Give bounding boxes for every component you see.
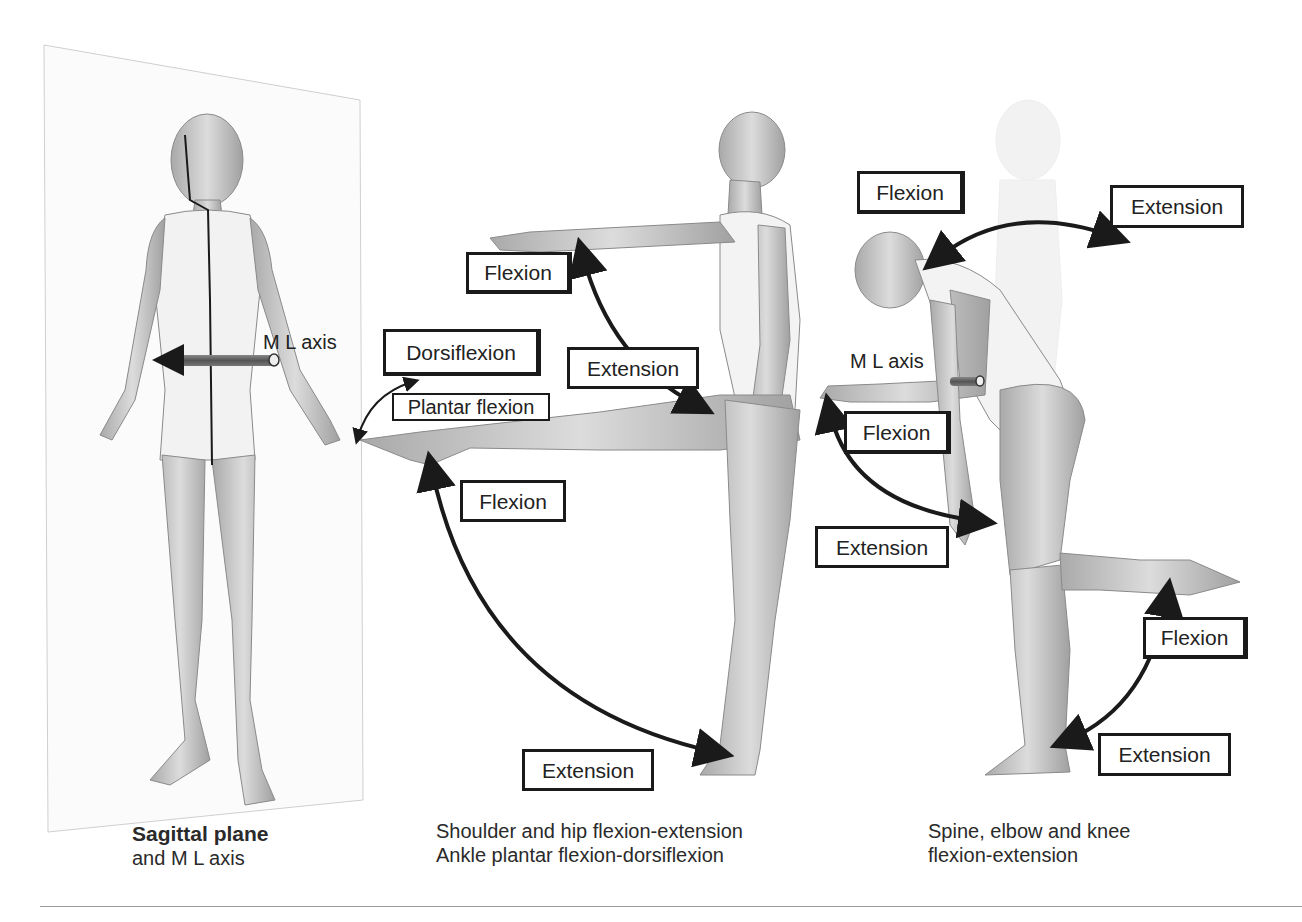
label-elbow-extension: Extension (815, 526, 949, 568)
label-spine-flexion: Flexion (857, 171, 965, 214)
label-knee-flexion: Flexion (1143, 617, 1248, 659)
sagittal-caption-subtitle: and M L axis (132, 847, 245, 869)
label-elbow-flexion: Flexion (844, 411, 951, 454)
ml-axis-label: M L axis (263, 331, 337, 354)
panel2-caption: Shoulder and hip flexion-extension Ankle… (436, 819, 743, 867)
panel2-caption-line1: Shoulder and hip flexion-extension (436, 820, 743, 842)
panel3-caption-line1: Spine, elbow and knee (928, 820, 1130, 842)
panel3-caption-line2: flexion-extension (928, 844, 1078, 866)
sagittal-plane-panel (44, 45, 363, 832)
panel2-caption-line2: Ankle plantar flexion-dorsiflexion (436, 844, 724, 866)
elbow-ml-axis-label: M L axis (850, 350, 924, 373)
label-shoulder-flexion: Flexion (466, 252, 572, 294)
label-spine-extension: Extension (1110, 185, 1244, 228)
label-hip-extension: Extension (522, 749, 654, 791)
label-knee-extension: Extension (1098, 733, 1231, 776)
label-hip-flexion: Flexion (460, 480, 566, 522)
panel3-caption: Spine, elbow and knee flexion-extension (928, 819, 1130, 867)
side-figure-standing (360, 112, 800, 775)
label-shoulder-extension: Extension (567, 347, 699, 389)
label-plantar-flexion: Plantar flexion (392, 393, 550, 421)
ml-axis-rod (175, 355, 275, 366)
sagittal-caption: Sagittal plane and M L axis (132, 822, 269, 870)
bottom-divider (40, 906, 1302, 907)
sagittal-caption-title: Sagittal plane (132, 822, 269, 845)
label-dorsiflexion: Dorsiflexion (383, 329, 541, 376)
